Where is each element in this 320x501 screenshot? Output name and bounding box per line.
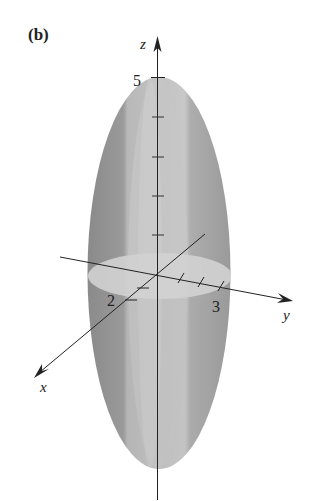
panel-label: (b) xyxy=(28,25,49,44)
z-axis-label: z xyxy=(139,36,146,52)
y-arrow-icon xyxy=(277,293,293,303)
z-tick-label: 5 xyxy=(133,72,141,89)
ellipsoid-figure: (b) z 5 3 y xyxy=(0,0,320,501)
ellipsoid-surface xyxy=(80,77,240,479)
y-tick-label: 3 xyxy=(212,298,220,315)
x-axis-label: x xyxy=(39,379,47,395)
x-tick-label: 2 xyxy=(107,292,115,309)
y-axis-label: y xyxy=(281,307,290,323)
